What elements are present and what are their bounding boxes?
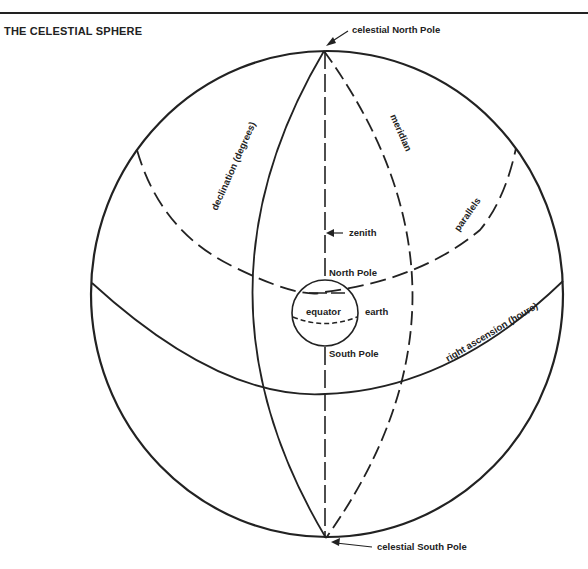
- meridian-label: meridian: [388, 112, 414, 153]
- south-pole-label: South Pole: [329, 348, 379, 359]
- celestial-south-pole-label: celestial South Pole: [377, 541, 467, 552]
- north-pole-label: North Pole: [329, 267, 377, 278]
- celestial-sphere-outline: [91, 51, 563, 537]
- south-pole-arrow-head: [331, 538, 340, 546]
- earth-label: earth: [365, 306, 388, 317]
- north-pole-arrow-head: [326, 37, 336, 46]
- equator-label: equator: [306, 306, 341, 317]
- celestial-north-pole-label: celestial North Pole: [352, 24, 440, 35]
- zenith-arrow-head: [326, 229, 334, 237]
- earth-equator-line: [293, 317, 357, 324]
- right-ascension-label: right ascension (hours): [443, 300, 539, 364]
- celestial-sphere-diagram: celestial North Pole celestial South Pol…: [0, 0, 588, 569]
- south-pole-arrow-line: [336, 543, 372, 547]
- zenith-label: zenith: [349, 227, 377, 238]
- parallels-label: parallels: [452, 195, 483, 233]
- declination-label: declination (degrees): [209, 120, 258, 212]
- declination-meridian-line: [252, 51, 326, 538]
